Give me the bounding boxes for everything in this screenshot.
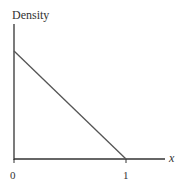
tick-label-0: 0	[10, 169, 16, 181]
density-line	[14, 51, 126, 159]
y-axis-label: Density	[12, 8, 49, 22]
density-chart: Density x 0 1	[0, 0, 182, 188]
tick-label-1: 1	[123, 169, 129, 181]
x-axis-label: x	[168, 151, 175, 165]
